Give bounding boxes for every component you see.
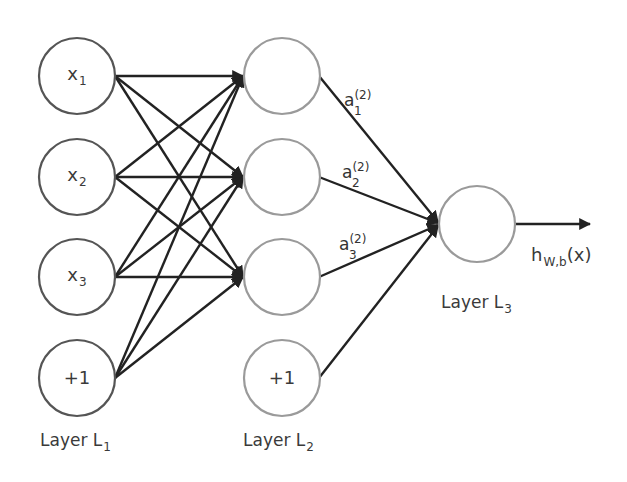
network-diagram: [0, 0, 627, 482]
activation-a2: a(2)2: [342, 164, 369, 181]
node-x2-label: x2: [67, 166, 86, 184]
node-x3-label: x3: [67, 266, 86, 284]
activation-a3-sub: 3: [349, 249, 357, 261]
node-x1-label: x1: [67, 65, 86, 83]
output-label: hW,b(x): [531, 246, 591, 264]
layer-2-label: Layer L2: [243, 432, 314, 449]
node-hidden-3: [244, 239, 320, 315]
activation-a1-sub: 1: [354, 105, 362, 117]
activation-a2-base: a: [342, 162, 352, 182]
activation-a3-sup: (2): [349, 232, 366, 246]
node-x2-var: x: [67, 164, 78, 185]
layer-1-nodes: [39, 38, 115, 416]
activation-a3: a(2)3: [339, 236, 366, 253]
edges-l1-l2: [115, 76, 243, 378]
node-x3-sub: 3: [79, 275, 87, 289]
activation-a1-sup: (2): [354, 88, 371, 102]
layer-3-label-sub: 3: [504, 302, 512, 316]
output-base: h: [531, 244, 542, 265]
node-x3-var: x: [67, 264, 78, 285]
node-hidden-1: [244, 38, 320, 114]
layer-3-label-text: Layer L: [441, 292, 503, 312]
node-bias-l1-label: +1: [64, 369, 91, 387]
node-x1-var: x: [67, 63, 78, 84]
node-hidden-2: [244, 139, 320, 215]
output-arg: (x): [567, 244, 592, 265]
activation-a3-base: a: [339, 234, 349, 254]
node-x2-sub: 2: [79, 175, 87, 189]
node-bias-l2-label: +1: [269, 369, 296, 387]
layer-1-label: Layer L1: [40, 432, 111, 449]
node-output: [439, 186, 515, 262]
layer-2-nodes: [244, 38, 320, 416]
activation-a2-sub: 2: [352, 177, 360, 189]
output-sub: W,b: [543, 255, 566, 269]
layer-1-label-text: Layer L: [40, 430, 102, 450]
activation-a2-sup: (2): [352, 160, 369, 174]
edges-l2-l3: [319, 76, 438, 378]
activation-a1: a(2)1: [344, 92, 371, 109]
layer-2-label-text: Layer L: [243, 430, 305, 450]
layer-1-label-sub: 1: [103, 440, 111, 454]
layer-2-label-sub: 2: [306, 440, 314, 454]
activation-a1-base: a: [344, 90, 354, 110]
layer-3-label: Layer L3: [441, 294, 512, 311]
node-x1-sub: 1: [79, 74, 87, 88]
